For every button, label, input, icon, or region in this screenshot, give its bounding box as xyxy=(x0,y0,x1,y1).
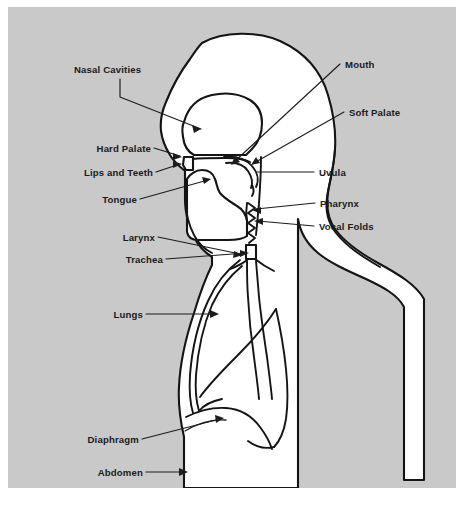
label-trachea: Trachea xyxy=(126,254,164,265)
nasal-cavity-chamber xyxy=(182,94,262,155)
label-uvula: Uvula xyxy=(319,167,346,178)
figure-root: Nasal Cavities Hard Palate Lips and Teet… xyxy=(0,0,468,505)
label-larynx: Larynx xyxy=(123,232,156,243)
nasal-cavity-group xyxy=(182,94,262,155)
label-mouth: Mouth xyxy=(345,59,375,70)
label-hard-palate: Hard Palate xyxy=(97,143,151,154)
anatomy-diagram-svg: Nasal Cavities Hard Palate Lips and Teet… xyxy=(8,7,456,488)
label-soft-palate: Soft Palate xyxy=(349,107,400,118)
label-vocal-folds: Vocal Folds xyxy=(319,221,374,232)
label-diaphragm: Diaphragm xyxy=(88,434,139,445)
label-tongue: Tongue xyxy=(102,194,137,205)
lips-and-teeth-shape xyxy=(183,157,193,170)
label-lungs: Lungs xyxy=(113,309,143,320)
larynx-shape xyxy=(246,245,256,259)
label-abdomen: Abdomen xyxy=(98,467,143,478)
anatomy-diagram-panel: Nasal Cavities Hard Palate Lips and Teet… xyxy=(8,7,456,488)
label-lips-and-teeth: Lips and Teeth xyxy=(84,167,153,178)
label-nasal-cavities: Nasal Cavities xyxy=(74,64,141,75)
pharynx-front-wall xyxy=(246,203,247,221)
label-pharynx: Pharynx xyxy=(320,198,359,209)
